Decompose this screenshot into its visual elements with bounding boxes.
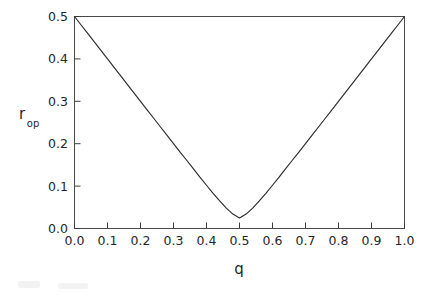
x-axis-ticks (75, 223, 405, 229)
x-tick-label: 0.1 (98, 233, 118, 248)
y-tick-label: 0.1 (48, 179, 68, 194)
x-tick-label: 0.5 (230, 233, 250, 248)
y-tick-label: 0.4 (48, 51, 68, 66)
x-tick-label: 0.9 (362, 233, 382, 248)
y-axis-title: r op (19, 105, 39, 129)
x-tick-label: 0.6 (263, 233, 283, 248)
y-tick-label: 0.5 (48, 9, 68, 24)
y-tick-label: 0.0 (48, 221, 68, 236)
y-tick-labels: 0.0 0.1 0.2 0.3 0.4 0.5 (48, 9, 68, 236)
x-tick-label: 1.0 (395, 233, 415, 248)
x-tick-label: 0.4 (197, 233, 217, 248)
figure-container: 0.0 0.1 0.2 0.3 0.4 0.5 0.6 0.7 0.8 0.9 … (0, 0, 422, 295)
scan-artifact (18, 281, 88, 289)
y-tick-label: 0.2 (48, 136, 68, 151)
x-tick-label: 0.2 (131, 233, 151, 248)
y-axis-title-main: r (19, 105, 26, 123)
data-curve-r-op (75, 17, 405, 218)
x-tick-label: 0.3 (164, 233, 184, 248)
x-axis-title: q (234, 260, 244, 278)
x-tick-label: 0.8 (329, 233, 349, 248)
y-axis-ticks (75, 17, 81, 229)
y-axis-title-subscript: op (27, 118, 39, 129)
chart-svg: 0.0 0.1 0.2 0.3 0.4 0.5 0.6 0.7 0.8 0.9 … (0, 0, 422, 295)
y-tick-label: 0.3 (48, 94, 68, 109)
x-tick-labels: 0.0 0.1 0.2 0.3 0.4 0.5 0.6 0.7 0.8 0.9 … (65, 233, 415, 248)
plot-frame (75, 17, 405, 229)
x-tick-label: 0.7 (296, 233, 316, 248)
